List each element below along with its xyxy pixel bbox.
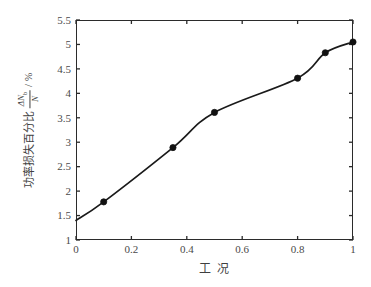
y-tick-label-6: 4 — [45, 88, 71, 99]
x-tick-label-3: 0.6 — [222, 243, 262, 256]
y-axis-unit: % — [24, 72, 35, 80]
x-tick-label-2: 0.4 — [167, 243, 207, 256]
x-tick-label-0: 0 — [56, 243, 96, 256]
y-tick-label-8: 5 — [45, 39, 71, 50]
fraction-numerator-text: ΔN — [17, 95, 27, 106]
x-tick-label-4: 0.8 — [278, 243, 318, 256]
fraction-denominator: N — [30, 94, 40, 104]
y-tick-label-3: 2.5 — [45, 161, 71, 172]
y-tick-label-4: 3 — [45, 137, 71, 148]
y-axis-title-fraction: ΔNb N — [18, 90, 41, 108]
y-tick-label-9: 5.5 — [45, 15, 71, 26]
y-axis-unit-separator: / — [23, 83, 35, 86]
plot-area-frame — [76, 20, 353, 240]
x-axis-title: 工 况 — [76, 259, 353, 276]
fraction-numerator-subscript: b — [22, 92, 28, 95]
y-tick-label-5: 3.5 — [45, 113, 71, 124]
y-tick-label-7: 4.5 — [45, 64, 71, 75]
x-tick-label-5: 1 — [333, 243, 371, 256]
y-axis-title-text: 功率损失百分比 — [21, 111, 37, 188]
figure-container: 1 1.5 2 2.5 3 3.5 4 4.5 5 5.5 0 0.2 0.4 … — [0, 0, 371, 287]
y-tick-label-1: 1.5 — [45, 210, 71, 221]
fraction-numerator: ΔNb — [18, 90, 31, 108]
x-tick-label-1: 0.2 — [111, 243, 151, 256]
y-axis-title: 功率损失百分比 ΔNb N / % — [14, 20, 44, 240]
y-tick-label-2: 2 — [45, 186, 71, 197]
